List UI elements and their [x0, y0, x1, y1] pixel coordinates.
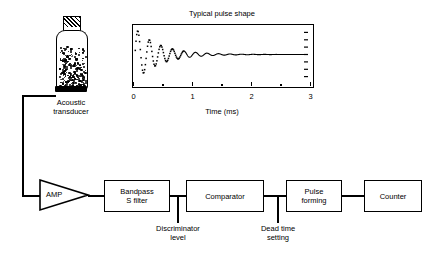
- transducer-label-line2: transducer: [44, 107, 98, 116]
- chart-title: Typical pulse shape: [132, 9, 312, 18]
- x-tick-major: [133, 82, 134, 86]
- leader-deadtime-stub: [277, 196, 279, 210]
- pulse-shape-plot: [132, 24, 314, 88]
- x-tick-minor: [221, 84, 222, 87]
- acoustic-transducer-illustration: [54, 16, 88, 94]
- x-tick-minor: [162, 84, 163, 87]
- amp-block[interactable]: AMP: [38, 178, 90, 212]
- x-tick-minor: [280, 84, 281, 87]
- pulse-forming-label-line2: forming: [301, 196, 326, 205]
- x-tick-major: [192, 82, 193, 86]
- particle-speckles: [57, 40, 87, 88]
- discriminator-level-line1: Discriminator: [143, 224, 213, 233]
- amp-label: AMP: [46, 190, 62, 199]
- leader-deadtime-vertical: [277, 209, 279, 223]
- wire-vertical-left: [22, 95, 24, 197]
- leader-discriminator-horizontal-stub: [177, 196, 179, 210]
- wire-comparator-to-pulse: [262, 195, 286, 197]
- bottle-body: [56, 40, 88, 89]
- x-tick-label: 2: [242, 92, 262, 101]
- bandpass-filter-block[interactable]: Bandpass S filter: [104, 180, 170, 212]
- bandpass-filter-label-line1: Bandpass: [120, 187, 153, 196]
- discriminator-level-line2: level: [143, 233, 213, 242]
- pulse-forming-label-line1: Pulse: [301, 187, 326, 196]
- x-axis-title: Time (ms): [132, 107, 312, 116]
- dead-time-setting-annotation: Dead time setting: [247, 224, 309, 242]
- x-tick-major: [310, 82, 311, 86]
- x-tick-label: 3: [301, 92, 321, 101]
- leader-discriminator-vertical: [177, 209, 179, 223]
- counter-block[interactable]: Counter: [364, 180, 422, 212]
- comparator-block[interactable]: Comparator: [186, 180, 264, 212]
- x-tick-label: 1: [183, 92, 203, 101]
- discriminator-level-annotation: Discriminator level: [143, 224, 213, 242]
- dead-time-setting-line1: Dead time: [247, 224, 309, 233]
- wire-pulse-to-counter: [340, 195, 364, 197]
- x-tick-label: 0: [124, 92, 144, 101]
- comparator-label: Comparator: [205, 192, 245, 201]
- wire-amp-to-filter: [88, 195, 104, 197]
- dead-time-setting-line2: setting: [247, 233, 309, 242]
- bandpass-filter-label-line2: S filter: [120, 196, 153, 205]
- pulse-waveform: [133, 25, 310, 84]
- wire-to-transducer: [22, 95, 56, 97]
- transducer-label-line1: Acoustic: [44, 98, 98, 107]
- bottle-base: [55, 86, 87, 92]
- x-tick-major: [251, 82, 252, 86]
- counter-label: Counter: [380, 192, 407, 201]
- pulse-forming-block[interactable]: Pulse forming: [286, 180, 342, 212]
